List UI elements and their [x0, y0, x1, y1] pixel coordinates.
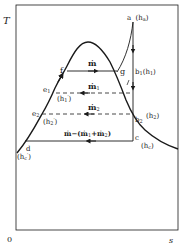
curve-a-to-g — [117, 22, 133, 72]
point-g-label: g — [120, 67, 125, 76]
point-e2-enthalpy: (h2′) — [43, 117, 58, 126]
b1-tick — [127, 80, 129, 85]
point-e1-enthalpy: (h1′) — [57, 94, 72, 103]
flow-main-label: ṁ — [88, 58, 97, 68]
x-axis-label: s — [169, 236, 173, 245]
flow-m2-label: ṁ2 — [88, 102, 100, 112]
point-b1-label: b1(h1) — [135, 68, 156, 76]
point-e2-label: e2 — [32, 110, 39, 118]
point-d-enthalpy: (hc′) — [17, 152, 31, 161]
ts-diagram: T 0 s a (ha) b1(h1) b2 (h2) c (hc) d (hc… — [0, 0, 185, 249]
point-b2-enthalpy: (h2) — [146, 112, 159, 120]
dome-arrow-icon — [58, 75, 62, 82]
point-c-label: c — [135, 134, 139, 142]
point-e1-label: e1 — [43, 86, 50, 94]
point-a-label: a (ha) — [127, 14, 149, 22]
flow-m1-label: ṁ1 — [88, 81, 100, 91]
point-b2-label: b2 — [135, 116, 143, 124]
y-axis-label: T — [3, 15, 11, 26]
point-c-enthalpy: (hc) — [141, 142, 154, 150]
origin-label: 0 — [7, 235, 12, 244]
flow-remainder-label: ṁ−(ṁ1+ṁ2) — [64, 129, 111, 138]
